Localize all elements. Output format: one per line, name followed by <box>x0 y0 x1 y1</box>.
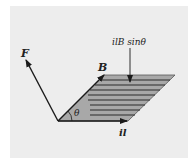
angle-label: θ <box>74 108 80 118</box>
force-diagram: F B il θ ilB sinθ <box>0 0 196 168</box>
area-label: ilB sinθ <box>112 37 147 47</box>
current-label: il <box>119 127 127 138</box>
f-vector-arrow <box>26 60 58 121</box>
field-label: B <box>97 61 107 74</box>
force-label: F <box>20 47 30 60</box>
